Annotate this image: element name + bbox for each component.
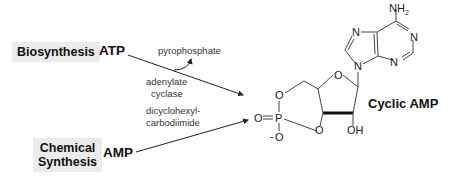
svg-text:O: O <box>275 89 284 101</box>
pyrophosphate-arrow <box>174 59 191 70</box>
svg-text:O: O <box>275 131 284 143</box>
reaction-diagram: NH2 N N N N O O O P - O O OH <box>0 0 449 182</box>
svg-text:N: N <box>354 60 362 72</box>
svg-text:N: N <box>410 31 418 43</box>
structure-atom-labels: NH2 N N N N O O O P - O O OH <box>254 2 418 143</box>
amp-arrow <box>136 120 248 152</box>
atom-nh2: NH2 <box>389 2 409 16</box>
svg-text:O: O <box>254 112 263 124</box>
svg-text:N: N <box>390 56 398 68</box>
svg-text:-: - <box>270 130 274 142</box>
svg-text:O: O <box>334 69 343 81</box>
atp-arrow <box>128 55 243 95</box>
svg-text:O: O <box>315 124 324 136</box>
svg-text:N: N <box>352 26 360 38</box>
svg-text:OH: OH <box>347 124 364 136</box>
svg-text:P: P <box>275 112 282 124</box>
